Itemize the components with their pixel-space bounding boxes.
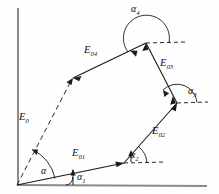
label-alpha2: α2 xyxy=(130,150,139,163)
label-alpha4: α4 xyxy=(131,4,140,17)
label-alpha3: α3 xyxy=(188,86,197,99)
vector-E01-line xyxy=(17,163,124,185)
label-alpha-symbol: α xyxy=(41,165,46,176)
vector-E03-line xyxy=(146,43,177,103)
label-E02: E02 xyxy=(152,126,165,139)
label-E0: E0 xyxy=(19,112,29,125)
reference-line-alpha4 xyxy=(146,42,186,43)
label-E0-subscript: 0 xyxy=(25,117,28,124)
label-alpha1: α1 xyxy=(77,172,86,185)
label-alpha: α xyxy=(41,166,46,179)
reference-line-alpha3 xyxy=(177,102,208,103)
vector-E01-arrowhead xyxy=(115,162,124,168)
figure-canvas xyxy=(0,0,219,194)
tick-alpha1-arrowhead xyxy=(70,169,75,175)
label-E04-subscript: 04 xyxy=(90,50,97,57)
vector-E04-arrowhead-near-vertex xyxy=(130,51,138,57)
label-E03-subscript: 03 xyxy=(166,63,173,70)
label-alpha1-subscript: 1 xyxy=(82,177,85,184)
label-E03: E03 xyxy=(160,58,173,71)
arc-alpha3-arrowhead xyxy=(163,90,169,97)
label-alpha2-subscript: 2 xyxy=(135,155,138,162)
label-E04: E04 xyxy=(84,45,97,58)
label-E01: E01 xyxy=(72,148,85,161)
label-alpha3-subscript: 3 xyxy=(193,91,196,98)
label-E01-subscript: 01 xyxy=(78,153,85,160)
label-E02-subscript: 02 xyxy=(158,131,165,138)
horizontal-axis xyxy=(17,185,207,186)
arc-alpha2 xyxy=(139,147,147,163)
vector-polygon-figure: E01 E02 E03 E04 E0 α α1 α2 α3 α4 xyxy=(0,0,219,194)
arc-alpha1 xyxy=(66,177,73,185)
label-alpha4-subscript: 4 xyxy=(136,9,139,16)
vector-E0-arrowhead xyxy=(66,78,73,85)
